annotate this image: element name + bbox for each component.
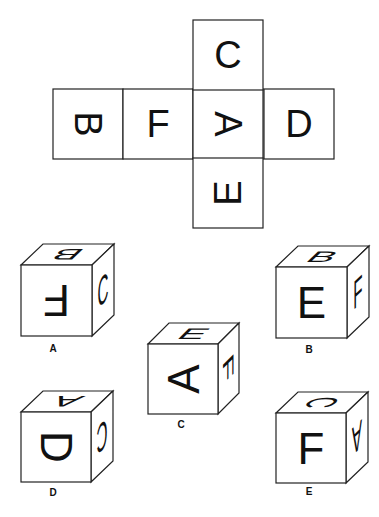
net-face-c: C — [193, 20, 263, 90]
cube-front-letter: F — [298, 424, 325, 473]
option-label: C — [177, 419, 184, 430]
option-cube-b[interactable]: EBFB — [276, 246, 369, 355]
cube-right-letter: F — [353, 265, 362, 319]
option-cube-c[interactable]: AEFC — [148, 323, 239, 430]
option-label: A — [49, 343, 56, 354]
cube-front-letter: D — [32, 431, 81, 463]
option-label: E — [306, 486, 313, 497]
cube-front-letter: E — [297, 278, 326, 327]
cube-options: FBCAEBFBAEFCDACDFCAE — [21, 244, 369, 498]
option-cube-a[interactable]: FBCA — [21, 244, 114, 354]
net-letter: C — [214, 34, 241, 76]
option-label: B — [305, 344, 312, 355]
net-face-a: A — [193, 89, 263, 159]
option-label: D — [49, 487, 56, 498]
option-cube-d[interactable]: DACD — [21, 391, 113, 498]
net-face-b: B — [53, 89, 123, 159]
cube-net: BFADCE — [53, 20, 334, 228]
net-face-d: D — [264, 89, 334, 159]
net-letter: D — [285, 103, 312, 145]
net-face-e: E — [193, 158, 263, 228]
net-face-f: F — [123, 89, 193, 159]
net-letter: A — [207, 111, 249, 137]
cube-front-letter: F — [43, 276, 70, 325]
cube-puzzle-diagram: BFADCE FBCAEBFBAEFCDACDFCAE — [0, 0, 379, 517]
net-letter: E — [207, 180, 249, 205]
net-letter: F — [146, 103, 169, 145]
cube-front-letter: A — [159, 364, 208, 394]
option-cube-e[interactable]: FCAE — [276, 392, 368, 497]
net-letter: B — [67, 111, 109, 136]
